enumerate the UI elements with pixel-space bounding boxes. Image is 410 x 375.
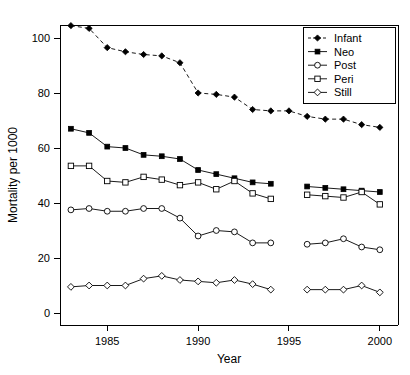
data-point-marker [159, 177, 164, 182]
y-axis-title: Mortality per 1000 [6, 127, 20, 223]
x-axis-ticks: 1985199019952000 [95, 325, 392, 347]
data-point-marker [376, 289, 383, 296]
y-tick-label: 20 [38, 252, 50, 264]
legend-label: Neo [334, 46, 354, 58]
data-point-marker [196, 168, 201, 173]
data-point-marker [250, 180, 255, 185]
series-still [304, 282, 383, 296]
data-point-marker [177, 215, 183, 221]
chart-legend: InfantNeoPostPeriStill [303, 27, 395, 103]
x-tick-label: 1985 [95, 335, 119, 347]
series-peri [68, 163, 273, 201]
data-point-marker [377, 190, 382, 195]
legend-marker-sample [315, 62, 321, 68]
data-point-marker [268, 108, 274, 114]
data-point-marker [250, 106, 256, 112]
data-point-marker [341, 195, 346, 200]
data-point-marker [122, 49, 128, 55]
x-tick-label: 1995 [277, 335, 301, 347]
data-point-marker [214, 172, 219, 177]
data-point-marker [231, 277, 238, 284]
data-point-marker [195, 233, 201, 239]
data-point-marker [69, 126, 74, 131]
y-tick-label: 100 [32, 32, 50, 44]
data-point-marker [195, 90, 201, 96]
data-point-marker [377, 124, 383, 130]
data-point-marker [249, 281, 256, 288]
data-point-marker [68, 23, 74, 29]
data-point-marker [304, 286, 311, 293]
data-point-marker [213, 228, 219, 234]
data-point-marker [141, 174, 146, 179]
legend-label: Infant [334, 32, 362, 44]
data-point-marker [304, 192, 309, 197]
data-point-marker [232, 178, 237, 183]
series-neo [69, 126, 274, 186]
x-tick-label: 1990 [186, 335, 210, 347]
data-point-marker [195, 180, 200, 185]
data-point-marker [232, 229, 238, 235]
y-axis-ticks: 020406080100 [32, 32, 60, 319]
series-neo [305, 184, 382, 194]
data-point-marker [140, 275, 147, 282]
data-point-marker [377, 247, 383, 253]
legend-marker-sample [315, 49, 320, 54]
data-point-marker [104, 282, 111, 289]
data-point-marker [377, 202, 382, 207]
series-post [68, 206, 274, 246]
y-tick-label: 40 [38, 197, 50, 209]
y-tick-label: 0 [44, 307, 50, 319]
data-point-marker [86, 282, 93, 289]
series-path [71, 166, 271, 199]
data-point-marker [358, 282, 365, 289]
data-point-marker [105, 144, 110, 149]
data-point-marker [304, 241, 310, 247]
data-point-marker [104, 45, 110, 51]
data-point-marker [178, 157, 183, 162]
series-path [71, 276, 271, 290]
legend-marker-sample [315, 76, 320, 81]
data-point-marker [341, 236, 347, 242]
data-point-marker [322, 240, 328, 246]
data-point-marker [105, 178, 110, 183]
data-point-marker [68, 283, 75, 290]
data-point-marker [304, 113, 310, 119]
data-point-marker [141, 206, 147, 212]
data-point-marker [268, 181, 273, 186]
y-tick-label: 60 [38, 142, 50, 154]
data-point-marker [250, 191, 255, 196]
data-point-marker [123, 146, 128, 151]
series-post [304, 236, 382, 253]
data-point-marker [86, 163, 91, 168]
series-still [68, 272, 275, 293]
data-point-marker [213, 279, 220, 286]
data-point-marker [177, 277, 184, 284]
data-point-marker [123, 208, 129, 214]
data-point-marker [86, 206, 92, 212]
data-point-marker [323, 193, 328, 198]
data-point-marker [267, 286, 274, 293]
data-point-marker [123, 180, 128, 185]
legend-label: Still [334, 86, 352, 98]
data-point-marker [250, 240, 256, 246]
data-point-marker [177, 60, 183, 66]
legend-label: Post [334, 59, 356, 71]
x-tick-label: 2000 [368, 335, 392, 347]
mortality-line-chart: 020406080100 1985199019952000 InfantNeoP… [0, 0, 410, 375]
data-point-marker [159, 206, 165, 212]
data-point-marker [140, 51, 146, 57]
series-path [71, 209, 271, 243]
data-point-marker [104, 208, 110, 214]
data-point-marker [122, 282, 129, 289]
y-tick-label: 80 [38, 87, 50, 99]
x-axis-title: Year [217, 352, 241, 366]
data-point-marker [322, 116, 328, 122]
data-point-marker [213, 91, 219, 97]
data-point-marker [341, 187, 346, 192]
chart-canvas: 020406080100 1985199019952000 InfantNeoP… [0, 0, 410, 375]
data-point-marker [68, 163, 73, 168]
data-point-marker [141, 152, 146, 157]
data-point-marker [268, 240, 274, 246]
data-point-marker [159, 53, 165, 59]
data-point-marker [359, 244, 365, 250]
